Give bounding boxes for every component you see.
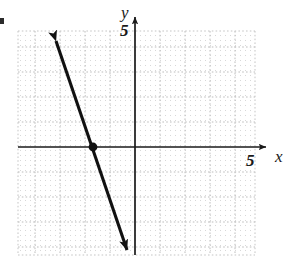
grid bbox=[18, 31, 255, 255]
y-axis-label: y bbox=[121, 4, 129, 21]
graph-figure: y 5 x 5 bbox=[0, 0, 290, 262]
y-axis-tick-label-5: 5 bbox=[120, 22, 129, 39]
x-axis-tick-label-5: 5 bbox=[246, 152, 255, 169]
x-intercept-point bbox=[89, 143, 98, 152]
edge-mark bbox=[0, 18, 4, 24]
x-axis-label: x bbox=[275, 148, 283, 165]
coordinate-plane-svg bbox=[0, 0, 290, 262]
